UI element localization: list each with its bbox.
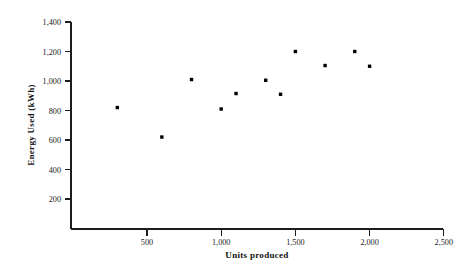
x-tick-label: 1,500: [286, 238, 304, 247]
x-tick-label: 2,000: [360, 238, 378, 247]
y-axis-tick-labels: 2004006008001,0001,2001,400: [43, 18, 61, 204]
plot-canvas: 2004006008001,0001,2001,400 5001,0001,50…: [0, 0, 473, 272]
data-point: [294, 50, 297, 53]
data-point: [264, 79, 267, 82]
x-axis-title: Units produced: [225, 250, 288, 260]
data-point: [323, 64, 326, 67]
y-tick-label: 400: [49, 166, 61, 175]
y-tick-label: 1,200: [43, 48, 61, 57]
y-tick-label: 1,400: [43, 18, 61, 27]
x-axis-ticks: [147, 229, 444, 236]
data-point: [368, 65, 371, 68]
data-point: [220, 107, 223, 110]
y-tick-label: 800: [49, 107, 61, 116]
data-point: [160, 135, 163, 138]
data-point: [190, 78, 193, 81]
y-axis-ticks: [65, 22, 72, 199]
x-tick-label: 1,000: [212, 238, 230, 247]
x-tick-label: 2,500: [435, 238, 453, 247]
x-axis-tick-labels: 5001,0001,5002,0002,500: [141, 238, 453, 247]
data-point-series: [116, 50, 372, 139]
scatter-chart-figure: 2004006008001,0001,2001,400 5001,0001,50…: [0, 0, 473, 272]
y-axis-title: Energy Used (kWh): [26, 84, 36, 166]
data-point: [234, 92, 237, 95]
y-tick-label: 600: [49, 136, 61, 145]
y-tick-label: 200: [49, 195, 61, 204]
x-tick-label: 500: [141, 238, 153, 247]
data-point: [279, 93, 282, 96]
data-point: [116, 106, 119, 109]
y-tick-label: 1,000: [43, 77, 61, 86]
data-point: [353, 50, 356, 53]
